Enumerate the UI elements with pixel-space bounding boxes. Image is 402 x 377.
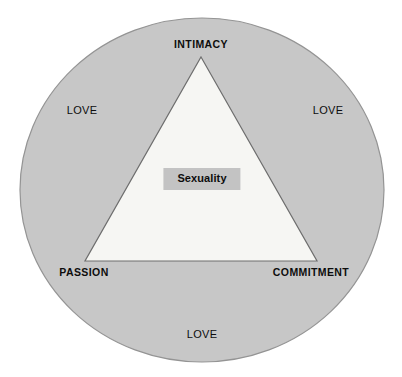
vertex-label-passion: PASSION <box>59 267 108 278</box>
side-label-love-right: LOVE <box>313 105 344 116</box>
center-label-sexuality: Sexuality <box>163 168 240 190</box>
vertex-label-intimacy: INTIMACY <box>174 39 228 50</box>
side-label-love-left: LOVE <box>67 105 98 116</box>
vertex-label-commitment: COMMITMENT <box>273 267 349 278</box>
side-label-love-bottom: LOVE <box>187 329 218 340</box>
triangular-love-diagram: INTIMACY PASSION COMMITMENT LOVE LOVE LO… <box>0 0 402 377</box>
